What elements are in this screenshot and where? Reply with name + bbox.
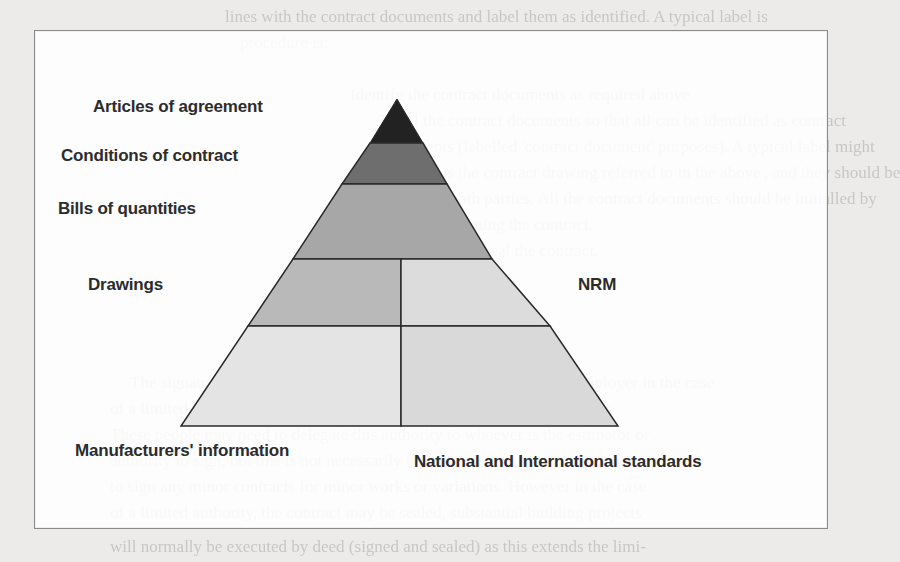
layer-national-international-standards bbox=[401, 326, 618, 426]
layer-conditions-of-contract bbox=[342, 143, 447, 184]
layer-drawings bbox=[248, 259, 401, 326]
label-nrm: NRM bbox=[578, 275, 616, 295]
label-conditions-of-contract: Conditions of contract bbox=[61, 146, 238, 166]
label-manufacturers-information: Manufacturers' information bbox=[75, 441, 289, 461]
layer-manufacturers-information bbox=[181, 326, 401, 426]
layer-bills-of-quantities bbox=[293, 184, 492, 259]
label-drawings: Drawings bbox=[88, 275, 163, 295]
label-national-international-standards: National and International standards bbox=[414, 452, 702, 472]
label-articles-of-agreement: Articles of agreement bbox=[93, 97, 263, 117]
label-bills-of-quantities: Bills of quantities bbox=[58, 199, 196, 219]
layer-nrm bbox=[401, 259, 550, 326]
layer-articles-of-agreement bbox=[370, 99, 423, 143]
